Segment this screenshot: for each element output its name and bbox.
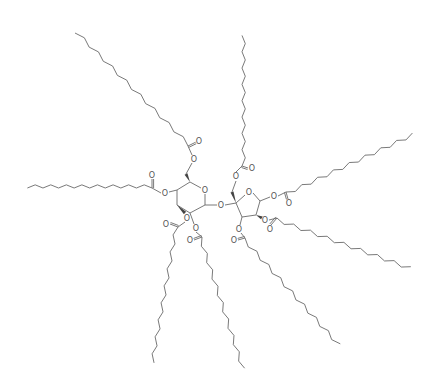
chain-fru-c6 — [286, 133, 412, 192]
bond — [190, 213, 194, 224]
wedge-bond — [185, 173, 190, 182]
bond — [260, 197, 270, 201]
ring-bond — [236, 195, 245, 203]
carbonyl-oxygen-fru4: O — [267, 225, 273, 234]
carbonyl-oxygen-fru6: O — [286, 199, 292, 208]
wedge-bond — [230, 191, 236, 203]
ring-bond — [256, 201, 260, 215]
glycosidic-bond — [225, 203, 236, 205]
ester-oxygen-glc6: O — [191, 155, 197, 164]
bond — [186, 163, 192, 174]
ring-oxygen-glc: O — [202, 186, 208, 195]
chain-fru-c1 — [242, 35, 245, 166]
carbonyl-oxygen-fru1: O — [249, 164, 255, 173]
carbonyl-oxygen-glc3: O — [163, 220, 169, 229]
chain-fru-c4 — [277, 218, 411, 267]
structure-diagram: OOOOOOOOOOOOOOOOOOO — [0, 0, 437, 387]
bond — [240, 217, 242, 225]
atom-label-layer: OOOOOOOOOOOOOOOOOOO — [148, 137, 292, 245]
ring-bond — [253, 193, 260, 201]
chain-fru-c3 — [245, 238, 340, 344]
carbonyl-oxygen-glc2: O — [187, 236, 193, 245]
chain-glc-c6 — [75, 33, 188, 146]
ester-oxygen-glc2: O — [193, 224, 199, 233]
ring-oxygen-fru: O — [246, 188, 252, 197]
chain-glc-c3 — [152, 227, 178, 363]
ester-oxygen-glc3: O — [184, 214, 190, 223]
ester-oxygen-fru6: O — [271, 192, 277, 201]
ester-oxygen-glc4: O — [162, 189, 168, 198]
bond — [232, 181, 236, 192]
bond — [188, 146, 192, 155]
bond — [152, 188, 161, 193]
chain-glc-c2 — [201, 237, 244, 368]
ring-bond — [242, 215, 256, 217]
chain-glc-c4 — [27, 185, 152, 188]
ring-bond — [190, 205, 205, 213]
ring-bond — [190, 182, 201, 188]
carbonyl-oxygen-glc4: O — [149, 171, 155, 180]
ester-oxygen-fru1: O — [233, 172, 239, 181]
ring-bond — [236, 203, 242, 217]
ring-bond — [177, 182, 190, 190]
bond — [169, 190, 177, 192]
glycosidic-oxygen: O — [218, 201, 224, 210]
carbonyl-oxygen-fru3: O — [231, 236, 237, 245]
ester-oxygen-fru3: O — [236, 225, 242, 234]
carbonyl-oxygen-glc6: O — [196, 137, 202, 146]
ester-oxygen-fru4: O — [262, 216, 268, 225]
